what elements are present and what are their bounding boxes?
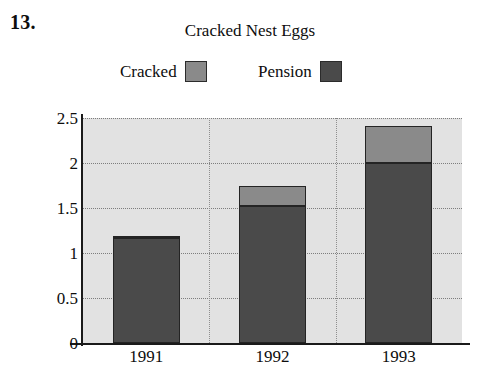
plot-area [83,118,462,343]
y-axis-tick-labels: 00.511.522.5 [28,0,78,378]
bar-segment-1992-cracked [239,186,306,206]
y-axis-tick-label: 1.5 [32,200,78,217]
bar-segment-1991-pension [113,238,180,343]
y-axis-tick-label: 2 [32,155,78,172]
x-axis-tick-label-1991: 1991 [86,348,206,365]
legend-swatch-pension [320,61,342,82]
legend-label-pension: Pension [258,63,312,80]
legend-entry-pension: Pension [258,58,342,84]
bar-segment-1991-cracked [113,236,180,238]
y-axis-line [81,114,83,346]
legend-label-cracked: Cracked [120,63,177,80]
chart-legend: Cracked Pension [110,58,380,84]
bar-segment-1993-pension [365,163,432,343]
y-axis-tick-label: 0.5 [32,290,78,307]
chart-title: Cracked Nest Eggs [120,22,380,41]
bar-segment-1993-cracked [365,126,432,163]
x-axis-line [70,343,470,345]
bar-group-1992 [239,118,306,343]
y-axis-tick-label: 1 [32,245,78,262]
bar-segment-1992-pension [239,206,306,343]
gridline-vertical [209,118,210,343]
y-axis-tick-label: 0 [32,335,78,352]
x-axis-tick-label-1993: 1993 [339,348,459,365]
legend-entry-cracked: Cracked [120,58,207,84]
legend-swatch-cracked [185,61,207,82]
y-axis-tick-label: 2.5 [32,110,78,127]
bar-chart-figure: Cracked Nest Eggs Cracked Pension 00.511… [0,0,479,378]
x-axis-tick-label-1992: 1992 [213,348,333,365]
bar-group-1993 [365,118,432,343]
bar-group-1991 [113,118,180,343]
gridline-vertical [336,118,337,343]
